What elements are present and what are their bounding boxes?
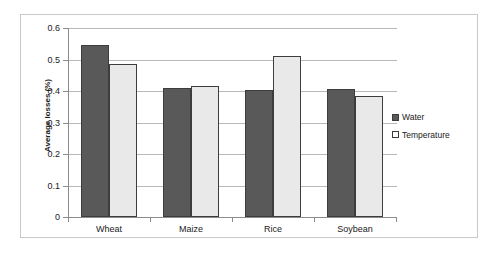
x-tick-mark <box>150 217 151 222</box>
x-axis-label-maize: Maize <box>179 224 203 234</box>
x-axis-label-soybean: Soybean <box>337 224 373 234</box>
bar-temperature-wheat <box>109 64 137 217</box>
x-axis-label-rice: Rice <box>264 224 282 234</box>
x-axis-label-wheat: Wheat <box>96 224 122 234</box>
bar-temperature-soybean <box>355 96 383 217</box>
bar-temperature-rice <box>273 56 301 217</box>
bar-water-maize <box>163 88 191 217</box>
y-tick-label: 0.4 <box>47 86 60 96</box>
bar-group <box>232 28 314 217</box>
bar-temperature-maize <box>191 86 219 217</box>
bar-group <box>314 28 396 217</box>
bar-group <box>68 28 150 217</box>
chart-legend: WaterTemperature <box>392 113 450 148</box>
legend-item-water: Water <box>392 113 450 122</box>
legend-swatch-icon <box>392 114 399 121</box>
y-tick-label: 0.3 <box>47 118 60 128</box>
legend-label: Water <box>402 113 424 122</box>
x-tick-mark <box>232 217 233 222</box>
bar-group <box>150 28 232 217</box>
y-tick-label: 0 <box>55 212 60 222</box>
bar-water-wheat <box>81 45 109 217</box>
bar-water-soybean <box>327 89 355 217</box>
plot-area: 00.10.20.30.40.50.6 WheatMaizeRiceSoybea… <box>68 28 396 217</box>
y-tick-label: 0.5 <box>47 55 60 65</box>
y-tick-label: 0.6 <box>47 23 60 33</box>
x-tick-mark <box>314 217 315 222</box>
y-tick-label: 0.1 <box>47 181 60 191</box>
legend-item-temperature: Temperature <box>392 131 450 140</box>
bar-water-rice <box>245 90 273 217</box>
legend-swatch-icon <box>392 131 399 138</box>
legend-label: Temperature <box>402 131 450 140</box>
y-tick-label: 0.2 <box>47 149 60 159</box>
x-tick-mark <box>396 217 397 222</box>
x-tick-mark <box>68 217 69 222</box>
